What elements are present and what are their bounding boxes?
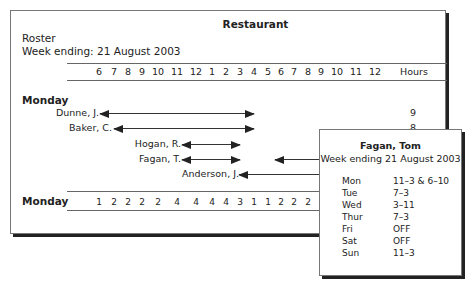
staff-detail-popup: Fagan, Tom Week ending 21 August 2003 Mo… [319, 129, 462, 276]
time-tick: 11 [350, 66, 362, 77]
staff-count: 2 [111, 197, 117, 207]
time-tick: 7 [291, 66, 297, 77]
shift-arrow [239, 174, 325, 175]
schedule-row: FriOFF [342, 224, 410, 234]
week-ending: Week ending: 21 August 2003 [22, 45, 181, 57]
staff-count: 2 [291, 197, 297, 207]
time-tick: 6 [278, 66, 284, 77]
divider [67, 80, 447, 81]
shift-arrow [182, 144, 240, 145]
time-tick: 8 [125, 66, 131, 77]
staff-count: 4 [174, 197, 180, 207]
time-tick: 12 [190, 66, 202, 77]
staff-count: 4 [223, 197, 229, 207]
time-tick: 5 [265, 66, 271, 77]
staff-count: 2 [139, 197, 145, 207]
staff-count: 1 [251, 197, 257, 207]
staff-count: 4 [193, 197, 199, 207]
arrow-left-icon [181, 156, 191, 164]
roster-title: Restaurant [11, 18, 445, 30]
day-heading: Monday [22, 94, 68, 106]
staff-name: Fagan, T. [139, 153, 181, 164]
time-tick: 12 [369, 66, 381, 77]
time-tick: 4 [251, 66, 257, 77]
staff-count: 1 [96, 197, 102, 207]
staff-count: 3 [237, 197, 243, 207]
arrow-right-icon [231, 156, 241, 164]
staff-count: 2 [278, 197, 284, 207]
hours-header: Hours [400, 66, 428, 77]
schedule-row: Thur7–3 [342, 212, 409, 222]
shift-arrow [114, 128, 254, 129]
staff-name: Anderson, J. [182, 168, 239, 179]
time-tick: 7 [111, 66, 117, 77]
time-tick: 10 [331, 66, 343, 77]
staff-hours: 9 [410, 107, 416, 118]
arrow-right-icon [245, 125, 255, 133]
arrow-left-icon [274, 156, 284, 164]
time-tick: 9 [318, 66, 324, 77]
schedule-row: SatOFF [342, 236, 410, 246]
staff-name: Dunne, J. [56, 107, 99, 118]
time-tick: 1 [209, 66, 215, 77]
staff-count: 4 [209, 197, 215, 207]
roster-subtitle: Roster [22, 32, 56, 44]
time-tick: 11 [171, 66, 183, 77]
time-tick: 3 [237, 66, 243, 77]
arrow-right-icon [231, 141, 241, 149]
arrow-right-icon [245, 110, 255, 118]
shift-arrow [275, 159, 325, 160]
time-tick: 9 [139, 66, 145, 77]
time-tick: 6 [96, 66, 102, 77]
arrow-left-icon [181, 141, 191, 149]
schedule-row: Sun11–3 [342, 248, 415, 258]
divider [67, 63, 447, 64]
staff-count: 2 [305, 197, 311, 207]
shift-arrow [100, 113, 254, 114]
time-tick: 10 [152, 66, 164, 77]
staff-count: 1 [265, 197, 271, 207]
popup-week-ending: Week ending 21 August 2003 [320, 153, 461, 164]
staff-name: Baker, C. [69, 122, 112, 133]
schedule-row: Wed3–11 [342, 200, 415, 210]
schedule-row: Tue7–3 [342, 188, 409, 198]
shift-arrow [182, 159, 240, 160]
time-tick: 8 [305, 66, 311, 77]
arrow-left-icon [113, 125, 123, 133]
staff-count: 2 [125, 197, 131, 207]
schedule-row: Mon11–3 & 6–10 [342, 176, 449, 186]
staff-count: 2 [155, 197, 161, 207]
arrow-left-icon [238, 171, 248, 179]
popup-staff-name: Fagan, Tom [320, 140, 461, 151]
summary-label: Monday [22, 195, 68, 207]
staff-name: Hogan, R. [135, 138, 181, 149]
time-tick: 2 [223, 66, 229, 77]
arrow-left-icon [99, 110, 109, 118]
